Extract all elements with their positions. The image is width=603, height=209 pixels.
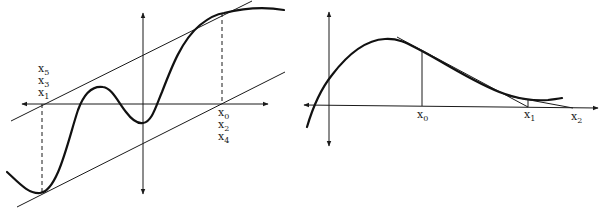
left-upper-tangent-line	[11, 1, 252, 121]
right-label-x2: x2	[571, 110, 582, 125]
right-label-x1: x1	[524, 108, 535, 123]
left-labels-x5-x3-x1: x5 x3 x1	[38, 62, 49, 101]
right-x-axis	[304, 105, 598, 108]
diagram-canvas: x5 x3 x1 x0 x2 x4 x0 x1 x2	[0, 0, 603, 209]
left-labels-x0-x2-x4: x0 x2 x4	[218, 106, 229, 145]
left-figure: x5 x3 x1 x0 x2 x4	[7, 1, 285, 207]
right-label-x0: x0	[417, 108, 428, 123]
left-lower-tangent-line	[17, 72, 285, 207]
right-figure: x0 x1 x2	[304, 12, 598, 146]
